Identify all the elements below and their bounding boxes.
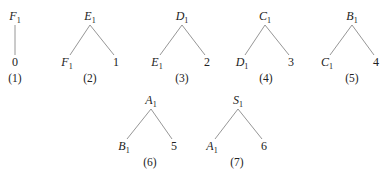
- tree-7: S1A16(7): [205, 93, 267, 169]
- parse-tree-diagram: F10(1)E1F11(2)D1E12(3)C1D13(4)B1C14(5)A1…: [0, 0, 382, 176]
- tree-caption: (5): [345, 72, 359, 85]
- tree-5: B1C14(5): [321, 9, 379, 85]
- root-node-f1: F1: [8, 9, 20, 25]
- tree-edge: [215, 109, 238, 139]
- tree-edge: [182, 25, 205, 55]
- tree-edge: [238, 109, 262, 139]
- tree-3: D1E12(3): [150, 9, 210, 85]
- root-node-d1: D1: [175, 9, 189, 25]
- root-node-a1: A1: [144, 93, 156, 109]
- terminal-node-0: 0: [12, 55, 18, 69]
- tree-edge: [151, 109, 172, 139]
- tree-caption: (4): [259, 72, 273, 85]
- child-node-a1: A1: [205, 139, 217, 155]
- tree-edge: [265, 25, 289, 55]
- tree-edge: [245, 25, 265, 55]
- root-node-c1: C1: [259, 9, 271, 25]
- terminal-node-5: 5: [171, 139, 177, 153]
- child-node-c1: C1: [321, 55, 333, 71]
- tree-edge: [70, 25, 90, 55]
- child-node-b1: B1: [118, 139, 129, 155]
- tree-edge: [352, 25, 374, 55]
- tree-caption: (1): [8, 72, 22, 85]
- root-node-e1: E1: [83, 9, 95, 25]
- tree-1: F10(1): [8, 9, 22, 85]
- terminal-node-2: 2: [204, 55, 210, 69]
- root-node-b1: B1: [346, 9, 357, 25]
- tree-edge: [330, 25, 352, 55]
- terminal-node-4: 4: [373, 55, 379, 69]
- tree-edge: [160, 25, 182, 55]
- tree-caption: (7): [230, 156, 244, 169]
- tree-caption: (2): [83, 72, 97, 85]
- terminal-node-3: 3: [288, 55, 294, 69]
- terminal-node-6: 6: [261, 139, 267, 153]
- tree-2: E1F11(2): [60, 9, 119, 85]
- child-node-e1: E1: [150, 55, 162, 71]
- tree-caption: (3): [175, 72, 189, 85]
- terminal-node-1: 1: [113, 55, 119, 69]
- tree-sequence-figure: F10(1)E1F11(2)D1E12(3)C1D13(4)B1C14(5)A1…: [0, 0, 382, 176]
- tree-edge: [90, 25, 114, 55]
- tree-4: C1D13(4): [235, 9, 294, 85]
- child-node-f1: F1: [60, 55, 72, 71]
- tree-caption: (6): [143, 156, 157, 169]
- tree-edge: [127, 109, 151, 139]
- root-node-s1: S1: [233, 93, 243, 109]
- child-node-d1: D1: [235, 55, 249, 71]
- tree-6: A1B15(6): [118, 93, 177, 169]
